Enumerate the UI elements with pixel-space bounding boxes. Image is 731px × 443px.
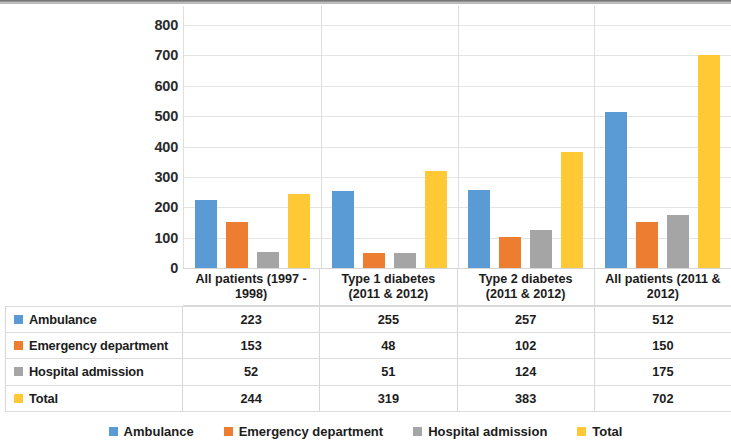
- category-row-stub: [0, 268, 183, 306]
- table-cell-value: 52: [183, 359, 320, 385]
- table-row-label-text: Hospital admission: [29, 364, 144, 379]
- series-color-swatch-icon: [14, 341, 23, 350]
- series-color-swatch-icon: [14, 394, 23, 403]
- bar: [425, 171, 447, 268]
- category-label-text: 1998): [195, 287, 306, 302]
- bar-group: [594, 6, 731, 268]
- table-cell-value: 48: [320, 333, 457, 359]
- table-row-label: Hospital admission: [5, 359, 183, 385]
- table-row: Total244319383702: [5, 386, 731, 413]
- series-color-swatch-icon: [14, 315, 23, 324]
- legend-item-label: Total: [592, 424, 622, 439]
- y-axis-tick-label: 600: [118, 78, 178, 94]
- y-axis-tick-label: 200: [118, 199, 178, 215]
- category-label-text: Type 2 diabetes(2011 & 2012): [479, 272, 573, 302]
- table-cell-value: 223: [183, 307, 320, 332]
- bar-group: [458, 6, 595, 268]
- bar: [499, 237, 521, 268]
- legend-item: Total: [577, 424, 622, 439]
- chart-screenshot: 8007006005004003002001000 All patients (…: [0, 0, 731, 443]
- table-cell-value: 257: [458, 307, 595, 332]
- table-cell-value: 51: [320, 359, 457, 385]
- series-color-swatch-icon: [14, 367, 23, 376]
- legend-item: Hospital admission: [413, 424, 547, 439]
- table-row-label-text: Total: [29, 391, 58, 406]
- bar-groups: [184, 6, 731, 268]
- table-cell-value: 702: [595, 386, 731, 412]
- category-label: Type 1 diabetes(2011 & 2012): [319, 269, 456, 305]
- bar-group: [321, 6, 458, 268]
- category-label: All patients (2011 &2012): [594, 269, 731, 305]
- bar: [667, 215, 689, 268]
- table-row-label: Ambulance: [5, 307, 183, 332]
- bar: [561, 152, 583, 268]
- category-label-text: (2011 & 2012): [342, 287, 436, 302]
- bar: [468, 190, 490, 268]
- bar: [363, 253, 385, 268]
- bar: [698, 55, 720, 268]
- category-label-text: 2012): [605, 287, 720, 302]
- plot-area: [183, 6, 731, 268]
- legend-color-swatch-icon: [109, 427, 118, 436]
- category-label-text: All patients (2011 &2012): [605, 272, 720, 302]
- bar: [394, 253, 416, 268]
- data-table: Ambulance223255257512Emergency departmen…: [5, 306, 731, 412]
- table-row-label: Emergency department: [5, 333, 183, 359]
- y-axis-tick-label: 500: [118, 108, 178, 124]
- table-row-label: Total: [5, 386, 183, 412]
- legend-item: Emergency department: [224, 424, 384, 439]
- legend-item-label: Emergency department: [239, 424, 384, 439]
- bar: [530, 230, 552, 268]
- bar: [288, 194, 310, 268]
- chart-legend: AmbulanceEmergency departmentHospital ad…: [0, 420, 731, 443]
- top-border-rule-secondary: [0, 3, 731, 4]
- table-cell-value: 124: [458, 359, 595, 385]
- table-row: Ambulance223255257512: [5, 306, 731, 333]
- legend-item-label: Hospital admission: [428, 424, 547, 439]
- table-row-label-text: Emergency department: [29, 338, 168, 353]
- legend-color-swatch-icon: [577, 427, 586, 436]
- legend-item: Ambulance: [109, 424, 194, 439]
- table-cell-value: 153: [183, 333, 320, 359]
- bar: [195, 200, 217, 268]
- category-label: Type 2 diabetes(2011 & 2012): [457, 269, 594, 305]
- y-axis: 8007006005004003002001000: [118, 6, 178, 268]
- legend-color-swatch-icon: [224, 427, 233, 436]
- bar: [257, 252, 279, 268]
- y-axis-tick-label: 300: [118, 169, 178, 185]
- bar: [226, 222, 248, 268]
- y-axis-tick-label: 800: [118, 17, 178, 33]
- legend-item-label: Ambulance: [124, 424, 194, 439]
- y-axis-tick-label: 100: [118, 230, 178, 246]
- chart-plot: 8007006005004003002001000: [0, 6, 731, 268]
- category-label: All patients (1997 -1998): [183, 269, 319, 305]
- y-axis-tick-label: 400: [118, 139, 178, 155]
- category-label-text: Type 1 diabetes(2011 & 2012): [342, 272, 436, 302]
- bar: [636, 222, 658, 268]
- bar: [332, 191, 354, 268]
- y-axis-tick-label: 700: [118, 47, 178, 63]
- bar-group: [184, 6, 321, 268]
- table-cell-value: 150: [595, 333, 731, 359]
- table-cell-value: 244: [183, 386, 320, 412]
- table-cell-value: 383: [458, 386, 595, 412]
- table-cell-value: 319: [320, 386, 457, 412]
- table-row: Hospital admission5251124175: [5, 359, 731, 386]
- table-row-label-text: Ambulance: [29, 312, 97, 327]
- category-label-text: (2011 & 2012): [479, 287, 573, 302]
- category-label-text: All patients (1997 -1998): [195, 272, 306, 302]
- table-row: Emergency department15348102150: [5, 333, 731, 360]
- legend-color-swatch-icon: [413, 427, 422, 436]
- category-axis-labels: All patients (1997 -1998)Type 1 diabetes…: [183, 268, 731, 306]
- table-cell-value: 512: [595, 307, 731, 332]
- table-cell-value: 102: [458, 333, 595, 359]
- table-cell-value: 255: [320, 307, 457, 332]
- table-cell-value: 175: [595, 359, 731, 385]
- bar: [605, 112, 627, 268]
